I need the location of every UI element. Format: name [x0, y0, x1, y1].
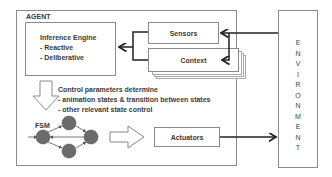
fsm-node	[36, 130, 50, 144]
fsm-to-actuators-arrow	[110, 126, 144, 148]
sensors-context-to-inference-arrow	[119, 32, 148, 60]
fsm-graph	[28, 116, 98, 158]
diagram-connectors	[0, 0, 332, 177]
fsm-node	[62, 116, 76, 130]
control-down-arrow	[33, 81, 59, 110]
fsm-node	[62, 144, 76, 158]
env-to-context-arrow	[222, 33, 229, 60]
fsm-node	[84, 130, 98, 144]
